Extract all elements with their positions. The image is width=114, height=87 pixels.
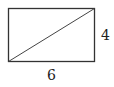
diagonal-line xyxy=(9,9,95,62)
height-label: 4 xyxy=(101,27,110,43)
rectangle-diagram: 4 6 xyxy=(0,0,114,87)
width-label: 6 xyxy=(47,67,56,83)
